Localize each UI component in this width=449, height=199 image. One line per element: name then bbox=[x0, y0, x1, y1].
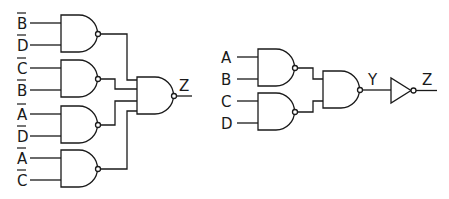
nand-gate-l1: B D bbox=[17, 13, 101, 55]
left-circuit: B D C B A D bbox=[17, 13, 192, 190]
input-label: B bbox=[17, 82, 27, 100]
input-label: C bbox=[17, 60, 27, 78]
wire-l4-to-output bbox=[101, 111, 137, 169]
output-label: Z bbox=[179, 77, 189, 95]
inverter-triangle bbox=[391, 78, 411, 103]
nand-gate-stage2: Y bbox=[323, 71, 391, 108]
intermediate-label: Y bbox=[367, 71, 378, 89]
wire-r1-to-stage2 bbox=[298, 68, 323, 79]
input-label: C bbox=[17, 172, 27, 190]
wire-r2-to-stage2 bbox=[298, 101, 323, 112]
input-label: A bbox=[221, 49, 232, 67]
output-label: Z bbox=[422, 71, 432, 89]
wire-l1-to-output bbox=[101, 34, 137, 80]
inversion-bubble bbox=[172, 94, 177, 99]
logic-diagram: B D C B A D bbox=[0, 0, 449, 199]
inversion-bubble bbox=[96, 77, 101, 82]
input-label: A bbox=[17, 150, 28, 168]
nand-gate-l4: A C bbox=[17, 148, 101, 190]
inversion-bubble bbox=[96, 32, 101, 37]
right-circuit: A B C D Y Z bbox=[221, 49, 437, 133]
nand-gate-l2: C B bbox=[17, 58, 101, 100]
inversion-bubble bbox=[358, 88, 363, 93]
inversion-bubble bbox=[96, 123, 101, 128]
inversion-bubble bbox=[411, 88, 416, 93]
input-label: A bbox=[17, 106, 28, 124]
input-label: D bbox=[221, 115, 233, 133]
input-label: C bbox=[221, 93, 231, 111]
not-gate: Z bbox=[391, 71, 437, 103]
wire-l3-to-output bbox=[101, 101, 137, 125]
nand-gate-r1: A B bbox=[221, 49, 298, 89]
input-label: D bbox=[17, 128, 29, 146]
input-label: B bbox=[221, 71, 231, 89]
inversion-bubble bbox=[96, 167, 101, 172]
nand-gate-4-input: Z bbox=[137, 77, 192, 114]
nand-gate-r2: C D bbox=[221, 93, 298, 133]
nand-gate-l3: A D bbox=[17, 104, 101, 146]
input-label: B bbox=[17, 15, 27, 33]
input-label: D bbox=[17, 37, 29, 55]
inversion-bubble bbox=[293, 110, 298, 115]
inversion-bubble bbox=[293, 66, 298, 71]
